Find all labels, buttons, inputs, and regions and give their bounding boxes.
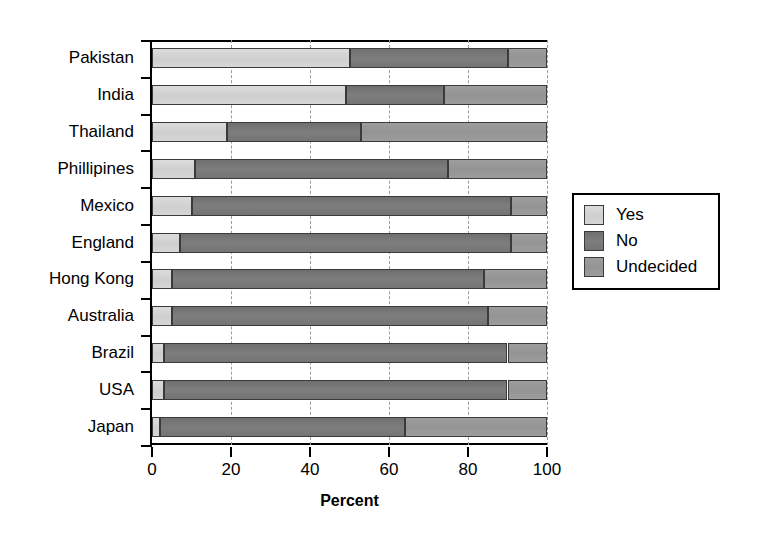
bar-row [152,196,547,216]
bar-segment [484,269,547,289]
bar-segment [164,380,508,400]
bar-segment [350,48,508,68]
y-axis-label-japan: Japan [0,418,134,436]
bar-segment [152,159,195,179]
bar-row [152,48,547,68]
bar-segment [152,196,192,216]
y-axis-tick [141,261,152,263]
bar-segment [192,196,512,216]
bar-segment [361,122,547,142]
bar-segment [152,122,227,142]
bar-segment [444,85,547,105]
bar-segment [180,233,512,253]
legend: YesNoUndecided [572,193,720,290]
x-axis-tick-label-0: 0 [122,460,182,480]
x-axis-tick-label-20: 20 [201,460,261,480]
x-axis-tick-60 [388,447,390,457]
plot-area [152,40,547,445]
bar-segment [227,122,361,142]
y-axis-label-mexico: Mexico [0,197,134,215]
legend-label-undecided: Undecided [616,257,697,277]
bar-segment [405,417,547,437]
y-axis-label-phillipines: Phillipines [0,160,134,178]
y-axis-tick [141,150,152,152]
stacked-bar-chart: PakistanIndiaThailandPhillipinesMexicoEn… [0,0,771,550]
bar-segment [164,343,508,363]
y-axis-label-england: England [0,234,134,252]
x-axis-tick-label-60: 60 [359,460,419,480]
y-axis-category-labels: PakistanIndiaThailandPhillipinesMexicoEn… [0,40,142,445]
bar-segment [152,269,172,289]
y-axis-tick [141,408,152,410]
legend-item-yes: Yes [584,203,644,227]
y-axis-tick [141,224,152,226]
y-axis-label-hong-kong: Hong Kong [0,270,134,288]
bar-segment [511,233,547,253]
bar-segment [152,343,164,363]
bar-segment [346,85,445,105]
x-axis-tick-label-100: 100 [517,460,577,480]
bar-row [152,159,547,179]
bar-segment [448,159,547,179]
y-axis-label-australia: Australia [0,307,134,325]
y-axis-tick [141,40,152,42]
bar-segment [152,48,350,68]
x-axis-tick-label-80: 80 [438,460,498,480]
bar-segment [152,233,180,253]
bar-segment [511,196,547,216]
legend-label-no: No [616,231,638,251]
x-axis-tick-40 [309,447,311,457]
x-axis-tick-100 [546,447,548,457]
bar-row [152,380,547,400]
y-axis-tick [141,298,152,300]
bar-row [152,85,547,105]
bar-segment [152,380,164,400]
legend-item-no: No [584,229,638,253]
bar-segment [152,417,160,437]
bar-segment [508,48,548,68]
bar-row [152,417,547,437]
y-axis-label-thailand: Thailand [0,123,134,141]
bar-segment [172,306,488,326]
bar-segment [152,306,172,326]
bar-segment [172,269,484,289]
y-axis-tick [141,371,152,373]
legend-label-yes: Yes [616,205,644,225]
legend-swatch-no [584,231,604,251]
legend-item-undecided: Undecided [584,255,697,279]
bar-segment [488,306,547,326]
bar-segment [160,417,405,437]
bar-row [152,343,547,363]
bar-row [152,269,547,289]
gridline-100 [547,40,548,445]
plot-top-border [152,40,547,42]
x-axis-tick-0 [151,447,153,457]
legend-swatch-undecided [584,257,604,277]
bar-segment [508,380,548,400]
y-axis-label-usa: USA [0,381,134,399]
x-axis-tick-label-40: 40 [280,460,340,480]
bar-row [152,233,547,253]
legend-swatch-yes [584,205,604,225]
bar-row [152,306,547,326]
y-axis-tick [141,187,152,189]
y-axis-tick [141,77,152,79]
x-axis-tick-20 [230,447,232,457]
bar-segment [508,343,548,363]
x-axis-title: Percent [152,492,547,510]
y-axis-label-brazil: Brazil [0,344,134,362]
bar-segment [152,85,346,105]
bar-row [152,122,547,142]
x-axis-tick-80 [467,447,469,457]
y-axis-tick [141,114,152,116]
bar-segment [195,159,448,179]
y-axis-label-india: India [0,86,134,104]
y-axis-tick [141,335,152,337]
x-axis-line [151,443,548,445]
y-axis-label-pakistan: Pakistan [0,49,134,67]
